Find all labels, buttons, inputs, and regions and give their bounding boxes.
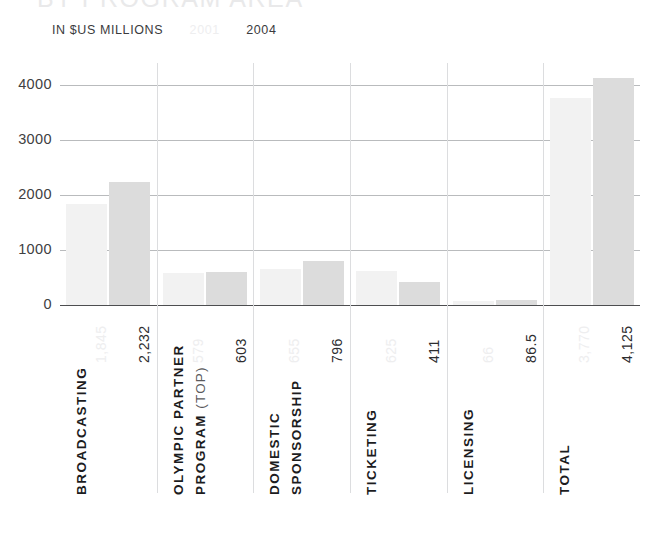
y-axis-tick-label: 4000 bbox=[0, 76, 52, 92]
value-label-2004: 4,125 bbox=[619, 325, 635, 363]
y-axis-tick-label: 3000 bbox=[0, 131, 52, 147]
bar-2004-total bbox=[593, 78, 634, 305]
bar-2004-broadcasting bbox=[109, 182, 150, 305]
value-label-2001: 66 bbox=[480, 346, 496, 363]
category-separator bbox=[157, 63, 158, 493]
category-label: TICKETING bbox=[364, 409, 379, 495]
y-axis-tick-label: 0 bbox=[0, 296, 52, 312]
bar-2001-broadcasting bbox=[66, 204, 107, 305]
bar-2001-domestic-sponsorship bbox=[260, 269, 301, 305]
category-separator bbox=[350, 63, 351, 493]
category-label: TOTAL bbox=[557, 444, 572, 495]
bar-2001-olympic-partner-program-top bbox=[163, 273, 204, 305]
chart-subtitle-row: IN $US MILLIONS 2001 2004 bbox=[52, 20, 276, 38]
page-title: BY PROGRAM AREA bbox=[37, 0, 304, 13]
category-label: DOMESTIC bbox=[267, 412, 282, 495]
value-label-2004: 2,232 bbox=[136, 325, 152, 363]
bar-2001-ticketing bbox=[356, 271, 397, 305]
bar-2004-olympic-partner-program-top bbox=[206, 272, 247, 305]
value-label-2004: 796 bbox=[329, 338, 345, 363]
category-label: OLYMPIC PARTNER bbox=[171, 344, 186, 495]
bar-2001-licensing bbox=[453, 301, 494, 305]
value-label-2001: 1,845 bbox=[93, 325, 109, 363]
category-label: LICENSING bbox=[461, 408, 476, 495]
value-label-2001: 579 bbox=[190, 338, 206, 363]
category-separator bbox=[447, 63, 448, 493]
bar-2001-total bbox=[550, 98, 591, 305]
category-label-annotation: (TOP) bbox=[193, 366, 208, 409]
chart-units-label: IN $US MILLIONS bbox=[52, 23, 163, 37]
value-label-2001: 625 bbox=[383, 338, 399, 363]
legend-item-2001: 2001 bbox=[190, 23, 220, 37]
y-axis-tick-label: 1000 bbox=[0, 241, 52, 257]
value-label-2004: 86.5 bbox=[523, 334, 539, 363]
bar-2004-licensing bbox=[496, 300, 537, 305]
value-label-2001: 3,770 bbox=[576, 325, 592, 363]
category-label: SPONSORSHIP bbox=[289, 379, 304, 495]
category-label: BROADCASTING bbox=[74, 367, 89, 495]
value-label-2004: 411 bbox=[426, 339, 442, 363]
bar-2004-ticketing bbox=[399, 282, 440, 305]
value-label-2004: 603 bbox=[233, 338, 249, 363]
category-separator bbox=[253, 63, 254, 493]
category-label: PROGRAM (TOP) bbox=[193, 366, 208, 495]
y-axis-tick-label: 2000 bbox=[0, 186, 52, 202]
legend-item-2004: 2004 bbox=[246, 23, 276, 37]
category-separator bbox=[543, 63, 544, 493]
value-label-2001: 655 bbox=[286, 338, 302, 363]
bar-2004-domestic-sponsorship bbox=[303, 261, 344, 305]
